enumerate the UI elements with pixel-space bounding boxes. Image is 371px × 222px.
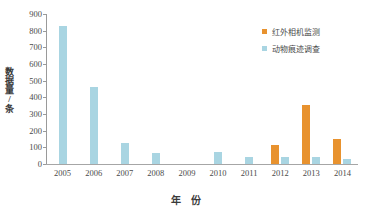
bar-category-2009	[171, 14, 202, 164]
y-axis-tick-label: 500	[16, 76, 42, 86]
y-axis-tick-mark	[43, 14, 46, 15]
y-axis-tick-mark	[43, 164, 46, 165]
y-axis-tick-label: 300	[16, 109, 42, 119]
x-axis-tick-label: 2013	[296, 168, 327, 178]
bar-2011-series-2[interactable]	[245, 157, 253, 164]
bar-category-2005	[47, 14, 78, 164]
bar-pair	[171, 14, 202, 164]
x-axis-tick-label: 2014	[327, 168, 358, 178]
y-axis-title-text: 数据量/条	[5, 67, 14, 113]
bar-2014-series-2[interactable]	[343, 159, 351, 164]
x-axis-title: 年 份	[0, 192, 371, 207]
y-axis-tick-label: 900	[16, 9, 42, 19]
y-axis-tick-label: 800	[16, 26, 42, 36]
x-axis-tick-labels: 2005200620072008200920102011201220132014	[47, 168, 358, 178]
y-axis-tick-labels: 9008007006005004003002001000	[14, 0, 42, 180]
y-axis-tick-label: 100	[16, 142, 42, 152]
y-axis-tick-mark	[43, 147, 46, 148]
bar-pair	[234, 14, 265, 164]
bar-2010-series-2[interactable]	[214, 152, 222, 164]
y-axis-tick-label: 400	[16, 92, 42, 102]
bar-2013-series-1[interactable]	[302, 105, 310, 164]
chart-legend: 红外相机监测动物痕迹调查	[262, 26, 320, 54]
y-axis-tick-mark	[43, 97, 46, 98]
legend-item-2[interactable]: 动物痕迹调查	[262, 43, 320, 54]
y-axis-tick-label: 200	[16, 126, 42, 136]
bar-pair	[140, 14, 171, 164]
x-axis-tick-label: 2012	[265, 168, 296, 178]
bar-2006-series-2[interactable]	[90, 87, 98, 165]
legend-label: 红外相机监测	[272, 26, 320, 37]
bar-2007-series-2[interactable]	[121, 143, 129, 164]
bar-2008-series-2[interactable]	[152, 153, 160, 164]
bar-pair	[327, 14, 358, 164]
bar-category-2014	[327, 14, 358, 164]
bar-pair	[202, 14, 233, 164]
x-axis-tick-label: 2005	[47, 168, 78, 178]
chart-container: 数据量/条 9008007006005004003002001000 20052…	[0, 0, 371, 222]
y-axis-tick-mark	[43, 31, 46, 32]
legend-label: 动物痕迹调查	[272, 43, 320, 54]
x-axis-tick-label: 2008	[140, 168, 171, 178]
y-axis-tick-mark	[43, 64, 46, 65]
legend-swatch-icon	[262, 29, 267, 34]
y-axis-tick-label: 700	[16, 42, 42, 52]
bar-pair	[109, 14, 140, 164]
bar-pair	[47, 14, 78, 164]
y-axis-tick-mark	[43, 114, 46, 115]
legend-item-1[interactable]: 红外相机监测	[262, 26, 320, 37]
bar-category-2006	[78, 14, 109, 164]
bar-2013-series-2[interactable]	[312, 157, 320, 164]
bar-category-2011	[234, 14, 265, 164]
bar-category-2007	[109, 14, 140, 164]
x-axis-tick-label: 2011	[234, 168, 265, 178]
y-axis-tick-mark	[43, 131, 46, 132]
bar-2012-series-1[interactable]	[271, 145, 279, 164]
bar-category-2008	[140, 14, 171, 164]
y-axis-tick-label: 600	[16, 59, 42, 69]
y-axis-tick-label: 0	[16, 159, 42, 169]
bar-2014-series-1[interactable]	[333, 139, 341, 164]
x-axis-tick-label: 2006	[78, 168, 109, 178]
legend-swatch-icon	[262, 46, 267, 51]
bar-pair	[78, 14, 109, 164]
bar-category-2010	[202, 14, 233, 164]
y-axis-tick-mark	[43, 81, 46, 82]
y-axis-tick-mark	[43, 47, 46, 48]
x-axis-tick-label: 2009	[171, 168, 202, 178]
x-axis-tick-label: 2007	[109, 168, 140, 178]
bar-2012-series-2[interactable]	[281, 157, 289, 164]
x-axis-tick-label: 2010	[202, 168, 233, 178]
bar-2005-series-2[interactable]	[59, 26, 67, 164]
